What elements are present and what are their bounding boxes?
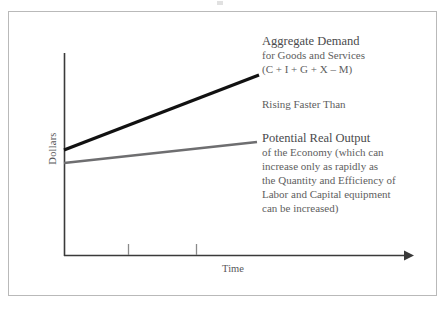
annotation-potential-output-line2: of the Economy (which can xyxy=(262,145,384,159)
annotation-potential-output-line4: the Quantity and Efficiency of xyxy=(262,173,396,187)
annotation-aggregate-demand-line2: for Goods and Services xyxy=(262,48,365,62)
x-axis-label: Time xyxy=(210,263,256,274)
x-axis-arrow xyxy=(404,251,414,261)
y-axis-label: Dollars xyxy=(47,119,58,179)
series-line-aggregate-demand xyxy=(64,75,259,150)
annotation-potential-output-line3: increase only as rapidly as xyxy=(262,159,378,173)
series-line-potential-real-output xyxy=(64,142,257,163)
annotation-aggregate-demand-heading: Aggregate Demand xyxy=(262,34,360,48)
figure-canvas: Dollars Time Aggregate Demand for Goods … xyxy=(0,0,445,309)
annotation-aggregate-demand-line3: (C + I + G + X – M) xyxy=(262,62,352,76)
annotation-potential-output-line6: can be increased) xyxy=(262,201,338,215)
annotation-connector-text: Rising Faster Than xyxy=(262,97,346,111)
annotation-potential-output-line5: Labor and Capital equipment xyxy=(262,187,391,201)
annotation-potential-output-heading: Potential Real Output xyxy=(262,131,370,145)
